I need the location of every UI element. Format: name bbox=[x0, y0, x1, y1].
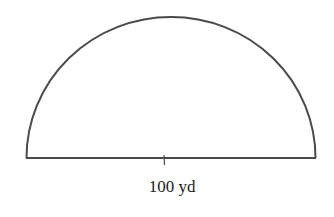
semicircle-arc bbox=[27, 17, 316, 158]
diameter-label: 100 yd bbox=[149, 177, 196, 196]
midpoint-tick bbox=[164, 155, 165, 165]
semicircle-diagram: 100 yd bbox=[0, 0, 334, 217]
